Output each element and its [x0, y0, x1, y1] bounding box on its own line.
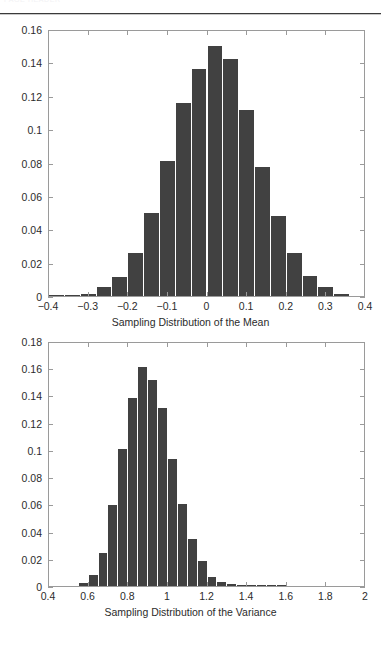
- y-tick: [48, 63, 53, 64]
- y-tick: [48, 30, 53, 31]
- y-tick-right: [360, 63, 365, 64]
- x-tick-label: 1.6: [278, 590, 293, 602]
- bar: [237, 585, 246, 586]
- x-tick-label: −0.4: [38, 300, 59, 312]
- bar: [144, 213, 159, 296]
- x-tick-label: 0.8: [120, 590, 135, 602]
- x-tick-label: 0.2: [278, 300, 293, 312]
- x-tick: [167, 582, 168, 587]
- x-tick: [325, 582, 326, 587]
- x-tick-label: 1: [164, 590, 170, 602]
- x-tick: [167, 292, 168, 297]
- y-tick-right: [360, 264, 365, 265]
- y-tick: [48, 230, 53, 231]
- x-tick: [286, 292, 287, 297]
- y-tick-label: 0.14: [0, 390, 42, 402]
- y-tick-right: [360, 197, 365, 198]
- x-tick-label: −0.3: [77, 300, 98, 312]
- bar: [160, 161, 175, 296]
- x-tick-top: [88, 342, 89, 347]
- bar: [223, 59, 238, 296]
- y-tick: [48, 97, 53, 98]
- y-tick-right: [360, 424, 365, 425]
- bar: [198, 561, 207, 586]
- bar: [257, 585, 266, 586]
- x-tick: [246, 292, 247, 297]
- x-tick-label: 0.4: [41, 590, 56, 602]
- y-tick-right: [360, 164, 365, 165]
- bar: [239, 110, 254, 296]
- bar: [247, 585, 256, 586]
- x-tick-label: 0.3: [318, 300, 333, 312]
- x-tick-top: [88, 30, 89, 35]
- x-axis-title-variance: Sampling Distribution of the Variance: [0, 606, 381, 618]
- y-tick-right: [360, 533, 365, 534]
- y-tick-right: [360, 342, 365, 343]
- y-tick-right: [360, 97, 365, 98]
- figure-sampling-distribution-of-the-variance: 00.020.040.060.080.10.120.140.160.18 0.4…: [0, 334, 381, 647]
- y-tick-right: [360, 505, 365, 506]
- page-header-ghost-text: PAGE HEADER: [4, 0, 61, 3]
- x-tick-label: 0: [204, 300, 210, 312]
- y-tick: [48, 424, 53, 425]
- y-tick-right: [360, 369, 365, 370]
- y-tick: [48, 130, 53, 131]
- bar: [65, 295, 80, 296]
- x-tick-top: [127, 342, 128, 347]
- y-tick-right: [360, 560, 365, 561]
- bar: [112, 277, 127, 296]
- y-tick: [48, 560, 53, 561]
- bar: [138, 367, 147, 586]
- x-tick-top: [167, 30, 168, 35]
- bar: [108, 505, 117, 586]
- y-tick-label: 0.02: [0, 258, 42, 270]
- bar: [97, 287, 112, 297]
- y-tick-label: 0: [0, 291, 42, 303]
- x-tick-top: [127, 30, 128, 35]
- bar: [271, 216, 286, 296]
- y-tick: [48, 342, 53, 343]
- x-tick: [127, 582, 128, 587]
- x-tick: [88, 582, 89, 587]
- y-tick-right: [360, 396, 365, 397]
- y-tick-label: 0.08: [0, 472, 42, 484]
- y-tick-right: [360, 478, 365, 479]
- y-tick-right: [360, 130, 365, 131]
- x-tick-label: −0.1: [157, 300, 178, 312]
- axes-box-variance: [48, 342, 365, 587]
- bar: [128, 253, 143, 296]
- y-tick: [48, 164, 53, 165]
- y-tick-label: 0.1: [0, 124, 42, 136]
- bar: [178, 504, 187, 586]
- y-tick: [48, 396, 53, 397]
- x-tick-top: [325, 30, 326, 35]
- bar-series-variance: [49, 343, 364, 586]
- y-tick-right: [360, 451, 365, 452]
- x-tick-top: [207, 30, 208, 35]
- x-tick-top: [246, 342, 247, 347]
- bar: [168, 459, 177, 586]
- bar: [148, 380, 157, 586]
- x-tick-label: 2: [362, 590, 368, 602]
- x-tick-label: 1.2: [199, 590, 214, 602]
- header-rule-secondary: [0, 14, 381, 15]
- bar: [287, 253, 302, 296]
- y-tick-label: 0.06: [0, 191, 42, 203]
- y-tick-right: [360, 587, 365, 588]
- x-tick-top: [207, 342, 208, 347]
- y-tick-label: 0.04: [0, 224, 42, 236]
- figure-sampling-distribution-of-the-mean: 00.020.040.060.080.10.120.140.16 −0.4−0.…: [0, 18, 381, 330]
- x-tick: [207, 292, 208, 297]
- x-tick-top: [286, 30, 287, 35]
- y-tick: [48, 297, 53, 298]
- y-tick-label: 0.06: [0, 499, 42, 511]
- bar: [255, 167, 270, 296]
- y-tick: [48, 505, 53, 506]
- y-tick-label: 0.12: [0, 418, 42, 430]
- x-tick-label: 0.6: [80, 590, 95, 602]
- x-tick-label: 1.8: [318, 590, 333, 602]
- y-tick: [48, 587, 53, 588]
- y-tick-label: 0: [0, 581, 42, 593]
- y-tick-label: 0.16: [0, 24, 42, 36]
- bar: [303, 276, 318, 296]
